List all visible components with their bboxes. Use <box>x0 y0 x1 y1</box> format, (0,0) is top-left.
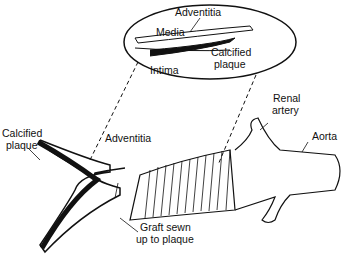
label-calcified-plaque-inset-2: plaque <box>214 59 246 70</box>
label-calcified-plaque-inset-1: Calcified <box>211 47 251 58</box>
label-renal-artery-1: Renal <box>273 93 300 104</box>
label-adventitia-inset: Adventitia <box>175 7 221 18</box>
label-media: Media <box>156 27 185 38</box>
label-intima: Intima <box>150 65 179 76</box>
label-adventitia: Adventitia <box>105 133 151 144</box>
label-renal-artery-2: artery <box>272 105 299 116</box>
label-aorta: Aorta <box>312 131 337 142</box>
label-graft-2: up to plaque <box>136 234 194 245</box>
label-graft-1: Graft sewn <box>140 222 191 233</box>
label-calcified-plaque-1: Calcified <box>2 128 42 139</box>
label-calcified-plaque-2: plaque <box>6 140 38 151</box>
